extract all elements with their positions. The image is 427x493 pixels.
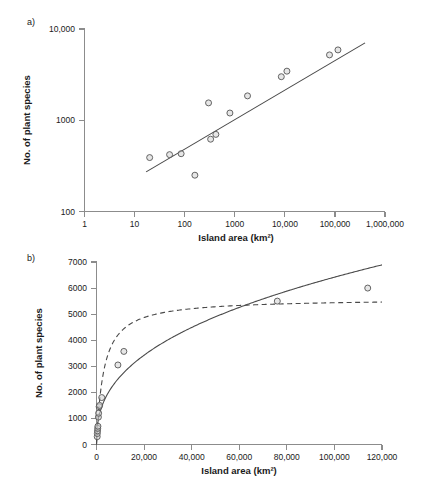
panel-b-ytick-label: 3000 (68, 361, 87, 371)
panel-a-datapoint (284, 68, 290, 74)
panel-a-xtick-1000: 1000 (225, 219, 244, 229)
panel-b-x-axis-title: Island area (km²) (201, 465, 277, 476)
panel-a-x-axis-title: Island area (km²) (198, 232, 274, 243)
panel-a-x-ticks: 1 10 100 1000 10,000 100,000 1,000,000 (82, 212, 404, 230)
panel-b-x-ticks: 020,00040,00060,00080,000100,000120,000 (94, 445, 397, 463)
panel-b-y-ticks: 01000200030004000500060007000 (68, 257, 96, 450)
panel-a-xtick-1: 1 (82, 219, 87, 229)
panel-a-datapoints (147, 47, 341, 178)
panel-a-datapoint (213, 131, 219, 137)
panel-b-dashed-fit-curve (97, 302, 383, 444)
figure-species-area: a) 100 1000 10,000 (0, 0, 427, 493)
panel-b-plot: 01000200030004000500060007000 020,00040,… (0, 245, 427, 493)
panel-b-xtick-label: 80,000 (274, 452, 300, 462)
panel-a-datapoint (208, 136, 214, 142)
panel-b-xtick-label: 100,000 (319, 452, 350, 462)
panel-a-label: a) (27, 17, 35, 27)
panel-a-datapoint (178, 151, 184, 157)
panel-b-ytick-label: 5000 (68, 309, 87, 319)
panel-b-solid-fit-curve (97, 265, 383, 445)
panel-b-datapoint (95, 423, 101, 429)
panel-a-y-ticks: 100 1000 10,000 (49, 24, 85, 217)
panel-a-datapoint (327, 52, 333, 58)
panel-a-datapoint (278, 74, 284, 80)
panel-b-xtick-label: 60,000 (226, 452, 252, 462)
panel-b-datapoint (97, 402, 103, 408)
panel-b-ytick-label: 1000 (68, 413, 87, 423)
panel-a-xtick-1000000: 1,000,000 (366, 219, 404, 229)
panel-b-label: b) (27, 253, 35, 263)
panel-b-datapoint (274, 298, 280, 304)
panel-a-plot: 100 1000 10,000 1 10 100 1000 10,000 100… (0, 0, 427, 248)
panel-a-xtick-10000: 10,000 (272, 219, 298, 229)
panel-b-datapoint (96, 410, 102, 416)
panel-a-ytick-10000: 10,000 (49, 24, 75, 34)
panel-a-y-axis-title: No. of plant species (21, 75, 32, 165)
panel-b-datapoint (115, 362, 121, 368)
panel-a-datapoint (245, 93, 251, 99)
panel-a-xtick-100: 100 (178, 219, 192, 229)
panel-b-datapoint (99, 395, 105, 401)
panel-a-ytick-1000: 1000 (56, 115, 75, 125)
panel-a-ytick-100: 100 (61, 207, 75, 217)
panel-b-ytick-label: 4000 (68, 335, 87, 345)
panel-b-y-axis-title: No. of plant species (33, 308, 44, 398)
panel-b-ytick-label: 6000 (68, 283, 87, 293)
panel-b-xtick-label: 40,000 (179, 452, 205, 462)
panel-a-datapoint (167, 152, 173, 158)
panel-b-datapoint (121, 348, 127, 354)
panel-b-datapoint (365, 285, 371, 291)
panel-b-ytick-label: 2000 (68, 387, 87, 397)
panel-b-xtick-label: 0 (94, 452, 99, 462)
panel-b-xtick-label: 20,000 (131, 452, 157, 462)
panel-a-datapoint (206, 100, 212, 106)
panel-a-datapoint (227, 110, 233, 116)
panel-a: a) 100 1000 10,000 (0, 0, 427, 248)
panel-a-xtick-10: 10 (130, 219, 140, 229)
panel-b-ytick-label: 0 (82, 440, 87, 450)
panel-b-xtick-label: 120,000 (367, 452, 398, 462)
panel-a-xtick-100000: 100,000 (320, 219, 351, 229)
panel-a-datapoint (335, 47, 341, 53)
panel-b: b) 01000200030004000500060007000 020,000… (0, 245, 427, 493)
panel-b-ytick-label: 7000 (68, 257, 87, 267)
panel-a-datapoint (147, 155, 153, 161)
panel-a-datapoint (192, 172, 198, 178)
